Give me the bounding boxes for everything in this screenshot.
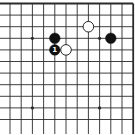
board-grid (0, 4, 133, 135)
white-stone-disc (83, 21, 94, 32)
white-stone-disc (61, 45, 72, 56)
go-board: 1 (0, 0, 135, 134)
star-point (31, 37, 34, 40)
black-stone-disc (106, 33, 117, 44)
black-stone-move-1: 1 (50, 45, 61, 56)
white-stone (83, 21, 94, 32)
white-stone (61, 45, 72, 56)
black-stone (50, 33, 61, 44)
black-stone (106, 33, 117, 44)
move-number-label: 1 (52, 46, 57, 54)
black-stone-disc (50, 33, 61, 44)
star-point (98, 37, 101, 40)
star-point (98, 106, 101, 109)
star-point (31, 106, 34, 109)
